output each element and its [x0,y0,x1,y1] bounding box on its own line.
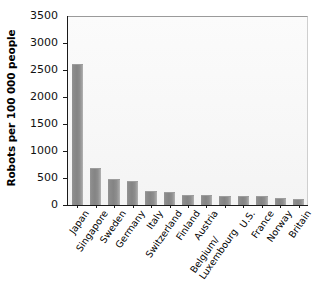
x-axis-labels: JapanSingaporeSwedenGermanyItalySwitzerl… [68,208,317,286]
y-tick-label: 1500 [30,116,58,132]
bar [108,179,119,205]
bar [127,181,138,205]
robots-per-capita-bar-chart: Robots per 100 000 people 05001000150020… [0,0,317,286]
bar [164,192,175,205]
y-tick-label: 500 [37,170,58,186]
y-tick-label: 1000 [30,143,58,159]
y-axis-title-text: Robots per 100 000 people [5,29,17,186]
bar [275,198,286,205]
bar [145,191,156,205]
y-tick-label: 3000 [30,35,58,51]
bar [90,168,101,205]
y-tick-label: 2000 [30,89,58,105]
bars-group [68,16,308,205]
y-tick-label: 3500 [30,8,58,24]
bar [256,196,267,205]
bar [201,195,212,205]
bar [219,196,230,205]
bar [72,64,83,205]
y-axis-title: Robots per 100 000 people [0,0,22,215]
y-tick-label: 2500 [30,62,58,78]
y-tick-label: 0 [51,197,58,213]
bar [182,195,193,205]
bar [238,196,249,205]
